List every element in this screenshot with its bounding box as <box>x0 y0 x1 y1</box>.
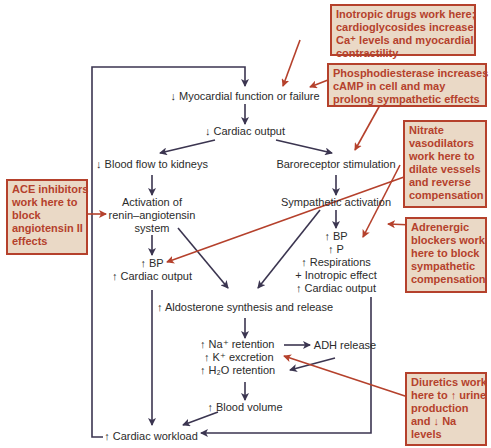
right-bp: ↑ BP <box>286 230 386 243</box>
node-baroreceptor-stimulation: Baroreceptor stimulation <box>276 158 396 171</box>
note-diuretics: Diuretics work here to ↑ urine productio… <box>405 372 487 446</box>
node-left-effects: ↑ BP ↑ Cardiac output <box>102 257 202 283</box>
note-line: block <box>12 209 82 222</box>
note-line: ACE inhibitors <box>12 183 82 196</box>
k-excretion: ↑ K⁺ excretion <box>200 351 290 364</box>
note-phosphodiesterase: Phosphodiesterase increases cAMP in cell… <box>327 63 487 107</box>
na-retention: ↑ Na⁺ retention <box>200 338 290 351</box>
note-line: angiotensin II <box>12 222 82 235</box>
right-cardiac-output: ↑ Cardiac output <box>286 282 386 295</box>
node-cardiac-workload: ↑ Cardiac workload <box>103 430 199 443</box>
note-line: levels <box>411 428 481 441</box>
note-line: Adrenergic <box>411 221 481 234</box>
note-nitrate-vasodilators: Nitrate vasodilators work here to dilate… <box>403 120 487 208</box>
h2o-retention: ↑ H₂O retention <box>200 364 290 377</box>
note-line: Nitrate <box>409 124 481 137</box>
note-line: cAMP in cell and may <box>333 80 481 93</box>
note-line: blockers work <box>411 234 481 247</box>
note-line: cardioglycosides increase <box>336 21 470 34</box>
note-line: sympathetic <box>411 260 481 273</box>
renin-line-1: Activation of <box>102 196 202 209</box>
left-cardiac-output: ↑ Cardiac output <box>102 270 202 283</box>
left-bp: ↑ BP <box>102 257 202 270</box>
node-renin-angiotensin: Activation of renin–angiotensin system <box>102 196 202 235</box>
right-respirations: ↑ Respirations <box>286 256 386 269</box>
note-line: Phosphodiesterase increases <box>333 67 481 80</box>
note-line: production <box>411 402 481 415</box>
note-line: effects <box>12 235 82 248</box>
note-adrenergic-blockers: Adrenergic blockers work here to block s… <box>405 217 487 293</box>
note-line: prolong sympathetic effects <box>333 93 481 106</box>
node-cardiac-output: ↓ Cardiac output <box>195 125 295 138</box>
note-line: here to block <box>411 247 481 260</box>
heart-failure-compensation-diagram: ↓ Myocardial function or failure ↓ Cardi… <box>0 0 491 448</box>
node-blood-volume: ↑ Blood volume <box>205 401 285 414</box>
node-aldosterone: ↑ Aldosterone synthesis and release <box>155 301 335 314</box>
node-adh-release: ADH release <box>310 339 380 352</box>
note-line: Ca⁺ levels and myocardial <box>336 34 470 47</box>
note-line: compensation <box>409 189 481 202</box>
node-right-effects: ↑ BP ↑ P ↑ Respirations + Inotropic effe… <box>286 230 386 295</box>
renin-line-3: system <box>102 222 202 235</box>
note-line: here to ↑ urine <box>411 389 481 402</box>
node-blood-flow-kidneys: ↓ Blood flow to kidneys <box>92 158 212 171</box>
note-ace-inhibitors: ACE inhibitors work here to block angiot… <box>6 179 88 255</box>
note-line: Inotropic drugs work here; <box>336 8 470 21</box>
right-pulse: ↑ P <box>286 243 386 256</box>
note-line: work here to <box>409 150 481 163</box>
node-sympathetic-activation: Sympathetic activation <box>276 196 396 209</box>
note-line: vasodilators <box>409 137 481 150</box>
note-line: dilate vessels <box>409 163 481 176</box>
node-myocardial-failure: ↓ Myocardial function or failure <box>170 90 320 103</box>
renin-line-2: renin–angiotensin <box>102 209 202 222</box>
note-line: work here to <box>12 196 82 209</box>
note-line: compensation <box>411 273 481 286</box>
note-line: and reverse <box>409 176 481 189</box>
right-inotropic: + Inotropic effect <box>286 269 386 282</box>
node-retention: ↑ Na⁺ retention ↑ K⁺ excretion ↑ H₂O ret… <box>200 338 290 377</box>
note-line: and ↓ Na <box>411 415 481 428</box>
note-line: contractility <box>336 47 470 60</box>
note-line: Diuretics work <box>411 376 481 389</box>
note-inotropic-drugs: Inotropic drugs work here; cardioglycosi… <box>330 4 476 56</box>
